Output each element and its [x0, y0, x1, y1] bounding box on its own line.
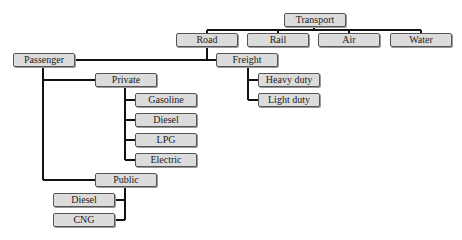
node-road: Road [176, 33, 238, 47]
node-transport: Transport [284, 13, 346, 27]
node-public: Public [95, 173, 157, 187]
node-gasoline: Gasoline [135, 93, 197, 107]
node-rail: Rail [247, 33, 309, 47]
node-electric: Electric [135, 153, 197, 167]
node-heavy-duty: Heavy duty [258, 73, 320, 87]
node-public-diesel: Diesel [53, 193, 115, 207]
node-private-diesel: Diesel [135, 113, 197, 127]
transport-tree-diagram: Transport Road Rail Air Water Passenger … [0, 0, 462, 240]
node-passenger: Passenger [13, 53, 75, 67]
node-water: Water [390, 33, 452, 47]
node-air: Air [318, 33, 380, 47]
node-lpg: LPG [135, 133, 197, 147]
node-freight: Freight [216, 53, 278, 67]
node-light-duty: Light duty [258, 93, 320, 107]
node-private: Private [95, 73, 157, 87]
node-cng: CNG [53, 213, 115, 227]
